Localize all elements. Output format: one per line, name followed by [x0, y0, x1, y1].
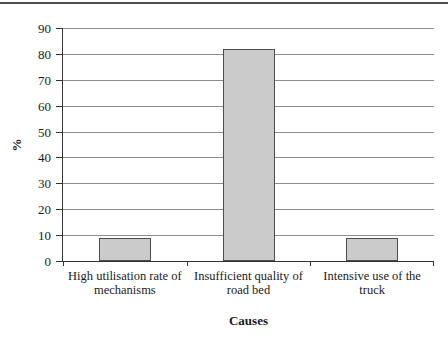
plot-area: 0102030405060708090: [63, 28, 434, 261]
x-axis-tick-2: [310, 261, 311, 266]
y-axis-title: %: [9, 132, 25, 158]
y-axis-tick-label-90: 90: [11, 22, 51, 35]
x-axis-tick-1: [187, 261, 188, 266]
category-label-1-line-1: High utilisation rate of: [63, 269, 187, 283]
y-axis-tick-label-70: 70: [11, 74, 51, 87]
x-axis-tick-3: [433, 261, 434, 266]
category-label-2: Insufficient quality ofroad bed: [187, 269, 311, 297]
x-axis-title: Causes: [63, 313, 434, 329]
x-axis-line: [62, 261, 434, 262]
top-border-line: [0, 2, 448, 4]
bar-2: [223, 49, 275, 261]
category-label-2-line-2: road bed: [187, 283, 311, 297]
category-label-3-line-2: truck: [310, 283, 434, 297]
y-axis-tick-label-80: 80: [11, 48, 51, 61]
bar-3: [346, 238, 398, 261]
category-label-1: High utilisation rate ofmechanisms: [63, 269, 187, 297]
y-axis-line: [62, 28, 63, 262]
category-label-3-line-1: Intensive use of the: [310, 269, 434, 283]
category-label-1-line-2: mechanisms: [63, 283, 187, 297]
category-label-3: Intensive use of thetruck: [310, 269, 434, 297]
y-axis-tick-label-60: 60: [11, 100, 51, 113]
category-label-2-line-1: Insufficient quality of: [187, 269, 311, 283]
x-axis-category-labels: High utilisation rate ofmechanismsInsuff…: [63, 269, 434, 297]
y-axis-tick-label-0: 0: [11, 255, 51, 268]
bar-1: [99, 238, 151, 261]
bar-chart-figure: 0102030405060708090 % High utilisation r…: [0, 0, 448, 341]
y-axis-tick-label-30: 30: [11, 177, 51, 190]
gridline-90: [63, 28, 434, 29]
x-axis-tick-0: [63, 261, 64, 266]
y-axis-tick-label-10: 10: [11, 229, 51, 242]
y-axis-tick-label-20: 20: [11, 203, 51, 216]
